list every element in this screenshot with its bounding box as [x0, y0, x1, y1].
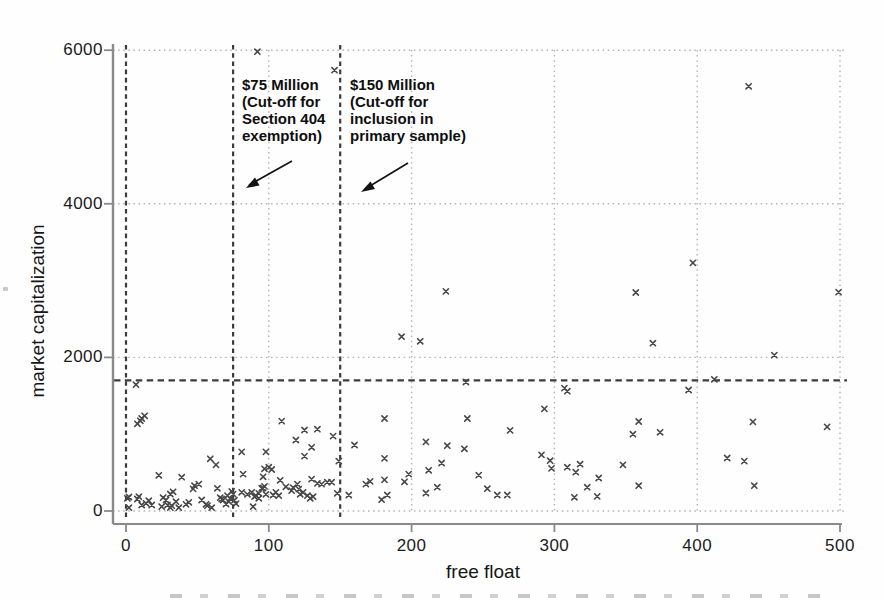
x-marker — [595, 494, 600, 499]
annotation-75-line2: (Cut-off for — [242, 93, 325, 110]
x-tick-label-400: 400 — [667, 536, 727, 556]
x-marker — [315, 481, 320, 486]
x-marker — [173, 499, 178, 504]
y-tick-label-6000: 6000 — [33, 40, 103, 60]
x-marker — [636, 419, 641, 424]
x-marker — [426, 468, 431, 473]
y-axis-title: market capitalization — [27, 201, 49, 421]
x-marker — [485, 486, 490, 491]
x-marker — [336, 459, 341, 464]
annotation-75-million: $75 Million (Cut-off for Section 404 exe… — [242, 76, 325, 144]
x-marker — [239, 490, 244, 495]
annotation-150-million: $150 Million (Cut-off for inclusion in p… — [350, 76, 466, 144]
x-marker — [752, 483, 757, 488]
x-tick-label-200: 200 — [382, 536, 442, 556]
x-marker — [382, 416, 387, 421]
x-marker — [542, 406, 547, 411]
x-marker — [163, 497, 168, 502]
annotation-75-line4: exemption) — [242, 127, 325, 144]
x-marker — [159, 504, 164, 509]
x-marker — [385, 492, 390, 497]
x-marker — [443, 289, 448, 294]
x-marker — [742, 459, 747, 464]
x-marker — [261, 474, 266, 479]
x-marker — [573, 470, 578, 475]
x-marker — [508, 428, 513, 433]
x-tick-label-500: 500 — [810, 536, 870, 556]
x-marker — [418, 339, 423, 344]
x-marker — [539, 452, 544, 457]
x-marker — [476, 473, 481, 478]
annotation-150-line3: inclusion in — [350, 110, 466, 127]
x-marker — [690, 260, 695, 265]
x-axis-title: free float — [403, 561, 563, 583]
x-marker — [565, 465, 570, 470]
y-tick-label-2000: 2000 — [33, 347, 103, 367]
x-marker — [725, 455, 730, 460]
x-marker — [269, 467, 274, 472]
cropped-caption-artifact — [170, 594, 835, 598]
x-marker — [293, 437, 298, 442]
x-marker — [302, 454, 307, 459]
x-marker — [620, 462, 625, 467]
x-marker — [279, 419, 284, 424]
x-marker — [399, 334, 404, 339]
x-marker — [133, 382, 138, 387]
x-marker — [215, 486, 220, 491]
x-marker — [439, 460, 444, 465]
x-marker — [309, 477, 314, 482]
x-marker — [276, 493, 281, 498]
x-tick-label-100: 100 — [239, 536, 299, 556]
x-marker — [251, 504, 256, 509]
x-marker — [572, 495, 577, 500]
x-marker — [332, 68, 337, 73]
x-marker — [352, 442, 357, 447]
x-marker — [465, 416, 470, 421]
annotation-arrowhead-1 — [246, 178, 260, 189]
x-marker — [746, 84, 751, 89]
x-marker — [750, 419, 755, 424]
x-marker — [302, 427, 307, 432]
annotation-75-line1: $75 Million — [242, 76, 325, 93]
x-marker — [658, 430, 663, 435]
x-marker — [382, 477, 387, 482]
x-marker — [208, 456, 213, 461]
x-marker — [423, 439, 428, 444]
x-marker — [825, 424, 830, 429]
x-marker — [379, 497, 384, 502]
x-marker — [495, 492, 500, 497]
x-marker — [179, 475, 184, 480]
x-marker — [423, 490, 428, 495]
x-marker — [565, 389, 570, 394]
x-tick-label-0: 0 — [96, 536, 156, 556]
x-marker — [171, 489, 176, 494]
x-marker — [505, 492, 510, 497]
x-marker — [836, 290, 841, 295]
annotation-150-line2: (Cut-off for — [350, 93, 466, 110]
x-marker — [176, 505, 181, 510]
x-marker — [636, 483, 641, 488]
x-marker — [255, 49, 260, 54]
x-marker — [402, 479, 407, 484]
annotation-75-line3: Section 404 — [242, 110, 325, 127]
x-marker — [585, 485, 590, 490]
scan-artifact-dot — [3, 287, 8, 291]
annotation-150-line4: primary sample) — [350, 127, 466, 144]
x-marker — [549, 466, 554, 471]
x-marker — [462, 446, 467, 451]
x-marker — [315, 427, 320, 432]
x-marker — [156, 473, 161, 478]
x-marker — [382, 456, 387, 461]
x-marker — [548, 458, 553, 463]
x-marker — [331, 434, 336, 439]
annotation-arrowhead-2 — [361, 182, 375, 193]
x-marker — [335, 491, 340, 496]
x-marker — [578, 462, 583, 467]
x-marker — [309, 445, 314, 450]
x-marker — [650, 341, 655, 346]
x-marker — [329, 480, 334, 485]
x-marker — [445, 443, 450, 448]
y-tick-label-0: 0 — [33, 501, 103, 521]
x-marker — [239, 449, 244, 454]
x-marker — [263, 449, 268, 454]
